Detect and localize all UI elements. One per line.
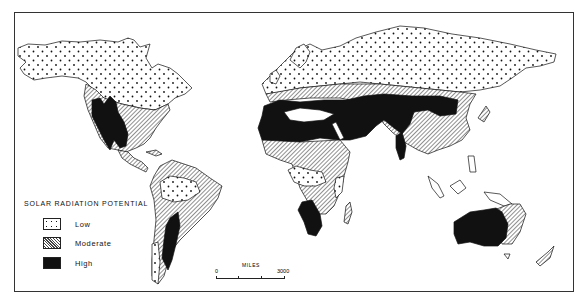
legend-item-high: High	[43, 257, 93, 269]
region-tasmania	[504, 254, 510, 259]
legend-label-low: Low	[75, 220, 91, 229]
legend-item-low: Low	[43, 218, 91, 230]
region-east-africa-low	[334, 176, 344, 198]
region-central-america-moderate	[118, 150, 148, 172]
region-new-guinea	[484, 192, 512, 206]
region-caribbean	[146, 150, 162, 156]
region-sumatra	[428, 176, 444, 198]
region-philippines	[468, 156, 476, 172]
scale-min-label: 0	[215, 268, 218, 274]
scale-tick	[238, 276, 239, 279]
legend-label-moderate: Moderate	[75, 239, 112, 248]
region-madagascar	[344, 202, 352, 224]
legend-swatch-high	[43, 257, 61, 269]
legend-item-moderate: Moderate	[43, 237, 112, 249]
scale-tick	[216, 276, 217, 279]
region-new-zealand	[536, 246, 554, 266]
legend-label-high: High	[75, 259, 93, 268]
legend-swatch-moderate	[43, 237, 61, 249]
legend-swatch-low	[43, 218, 61, 230]
region-south-america-low-coast	[152, 242, 160, 284]
region-borneo	[450, 180, 466, 194]
scale-tick	[261, 276, 262, 279]
scale-tick	[284, 276, 285, 279]
region-australia-high	[454, 208, 508, 246]
region-japan	[478, 106, 490, 122]
scale-unit-label: MILES	[242, 262, 260, 268]
legend-title: SOLAR RADIATION POTENTIAL	[24, 200, 148, 207]
scale-line	[216, 275, 285, 279]
scale-max-label: 3000	[277, 268, 289, 274]
